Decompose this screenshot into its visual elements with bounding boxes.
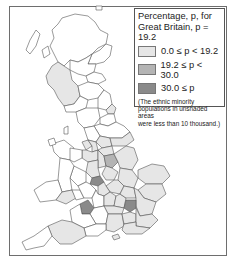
region-cornwall xyxy=(22,226,52,250)
map-legend: Percentage, p, for Great Britain, p = 19… xyxy=(134,8,225,107)
swatch-mid xyxy=(138,64,156,75)
legend-note-line2: populations in unshaded areas xyxy=(138,105,221,120)
legend-note-line1: (The ethnic minority xyxy=(138,98,221,105)
region-skye xyxy=(42,46,50,58)
legend-note-line3: were less than 10 thousand.) xyxy=(138,120,221,127)
region-orkney xyxy=(96,6,102,10)
region-lincolnshire xyxy=(114,146,138,170)
legend-item-mid: 19.2 ≤ p < 30.0 xyxy=(138,60,221,80)
legend-item-low: 0.0 ≤ p < 19.2 xyxy=(138,46,221,57)
region-clwyd xyxy=(70,148,82,162)
region-norfolk xyxy=(138,164,170,184)
legend-label-high: 30.0 ≤ p xyxy=(161,83,195,93)
legend-label-low: 0.0 ≤ p < 19.2 xyxy=(161,46,218,56)
region-greater-london xyxy=(124,200,136,212)
legend-note: (The ethnic minority populations in unsh… xyxy=(138,98,221,128)
swatch-high xyxy=(138,83,156,94)
region-isle-of-man xyxy=(64,126,68,134)
region-hampshire xyxy=(106,214,124,232)
region-staffordshire xyxy=(86,160,100,178)
legend-label-mid: 19.2 ≤ p < 30.0 xyxy=(161,60,221,80)
swatch-low xyxy=(138,46,156,57)
legend-title-line1: Percentage, p, for xyxy=(138,11,221,22)
region-western-isles xyxy=(26,30,40,54)
legend-title-line2: Great Britain, p = 19.2 xyxy=(138,22,221,43)
region-leicester xyxy=(102,166,118,180)
region-isle-of-wight xyxy=(112,234,120,240)
legend-item-high: 30.0 ≤ p xyxy=(138,83,221,94)
